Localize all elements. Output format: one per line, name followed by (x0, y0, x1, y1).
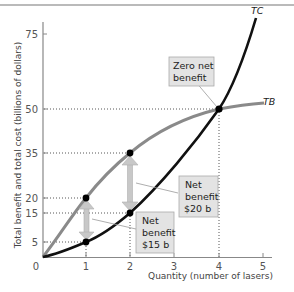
x-ticks (86, 253, 263, 257)
svg-text:Net: Net (142, 215, 159, 226)
y-tick-75: 75 (25, 29, 38, 40)
y-tick-50: 50 (25, 104, 38, 115)
chart: 75 50 35 20 15 5 0 1 2 3 4 5 Quantity (n… (0, 0, 294, 292)
y-tick-35: 35 (25, 148, 38, 159)
x-axis-title: Quantity (number of lasers) (148, 271, 273, 281)
svg-text:Net: Net (185, 179, 202, 190)
svg-text:Zero net: Zero net (173, 60, 214, 71)
svg-text:$15 b: $15 b (142, 239, 169, 250)
tc-label: TC (251, 5, 264, 16)
svg-text:benefit: benefit (173, 72, 207, 83)
x-tick-2: 2 (127, 261, 133, 272)
annotation-zero-net-benefit: Zero net benefit (169, 57, 214, 86)
y-axis-title: Total benefit and total cost (billions o… (13, 42, 23, 249)
svg-text:benefit: benefit (185, 191, 219, 202)
svg-text:$20 b: $20 b (184, 203, 211, 214)
x-tick-1: 1 (83, 261, 89, 272)
y-tick-5: 5 (32, 237, 38, 248)
point-intersection (215, 105, 222, 112)
point-tb-2 (127, 150, 134, 157)
annotation-net-benefit-15: Net benefit $15 b (136, 212, 176, 253)
tb-label: TB (263, 96, 275, 107)
point-tc-1 (83, 239, 90, 246)
y-tick-20: 20 (25, 193, 38, 204)
point-tb-1 (83, 195, 90, 202)
net-benefit-arrow-2 (122, 156, 138, 211)
annotation-net-benefit-20: Net benefit $20 b (179, 176, 219, 217)
y-tick-15: 15 (25, 208, 38, 219)
svg-text:benefit: benefit (142, 227, 176, 238)
origin-label: 0 (33, 261, 39, 272)
net-benefit-arrow-1 (79, 200, 94, 240)
point-tc-2 (127, 210, 134, 217)
